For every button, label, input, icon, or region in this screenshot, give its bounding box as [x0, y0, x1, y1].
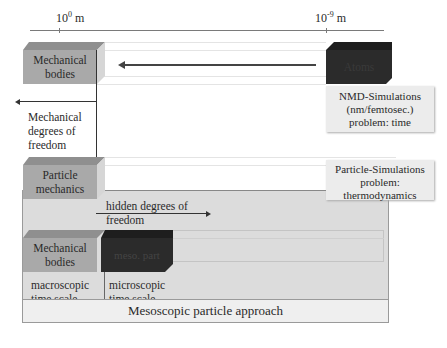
note-line: problem: time [326, 116, 434, 129]
particle-mechanics-box: Particle mechanics [23, 157, 105, 199]
atoms-box: Atoms [326, 42, 392, 84]
note-line: (nm/femtosec.) [326, 103, 434, 116]
caption-line: Mechanical [28, 110, 82, 124]
note-line: thermodynamics [326, 189, 434, 202]
mechanical-dof-arrow-line [19, 101, 96, 102]
arrow-left-icon [15, 99, 20, 105]
nmd-simulations-note: NMD-Simulations (nm/femtosec.) problem: … [326, 86, 434, 132]
note-line: NMD-Simulations [326, 90, 434, 103]
scale-tick-right [326, 28, 327, 33]
arrow-right-icon [206, 211, 211, 217]
time-scale-divider [104, 272, 105, 300]
hidden-dof-label: hidden degrees of freedom [106, 199, 188, 227]
particle-mechanics-label: Particle mechanics [23, 165, 97, 199]
row-guide [96, 76, 326, 77]
scale-label-nano: 10-9 m [315, 10, 346, 26]
caption-line: microscopic [109, 278, 165, 292]
mechanical-dof-label: Mechanical degrees of freedom [28, 110, 82, 152]
scale-up-arrow-line [122, 64, 316, 66]
atoms-label: Atoms [326, 50, 392, 84]
meso-part-box: meso. part [101, 230, 173, 272]
caption-line: hidden degrees of [106, 199, 188, 213]
note-line: Particle-Simulations [326, 163, 434, 176]
row-guide [96, 157, 396, 158]
arrow-left-icon [118, 61, 125, 69]
mechanical-bodies-lower-label: Mechanical bodies [23, 238, 97, 272]
particle-simulations-note: Particle-Simulations problem: thermodyna… [326, 160, 434, 200]
row-guide [96, 42, 326, 43]
row-guide [96, 50, 326, 51]
caption-line: macroscopic [31, 278, 89, 292]
mechanical-bodies-label: Mechanical bodies [23, 50, 97, 84]
mechanical-bodies-box-lower: Mechanical bodies [23, 230, 105, 272]
scale-label-macro: 100 m [56, 10, 84, 26]
note-line: problem: [326, 176, 434, 189]
meso-part-label: meso. part [101, 238, 173, 272]
scale-tick-left [59, 28, 60, 33]
mesoscopic-approach-footer: Mesoscopic particle approach [22, 299, 389, 323]
row-guide [96, 84, 326, 85]
caption-line: freedom [106, 213, 188, 227]
scale-axis [30, 30, 384, 31]
mechanical-bodies-box: Mechanical bodies [23, 42, 105, 84]
caption-line: degrees of [28, 124, 82, 138]
caption-line: freedom [28, 138, 82, 152]
